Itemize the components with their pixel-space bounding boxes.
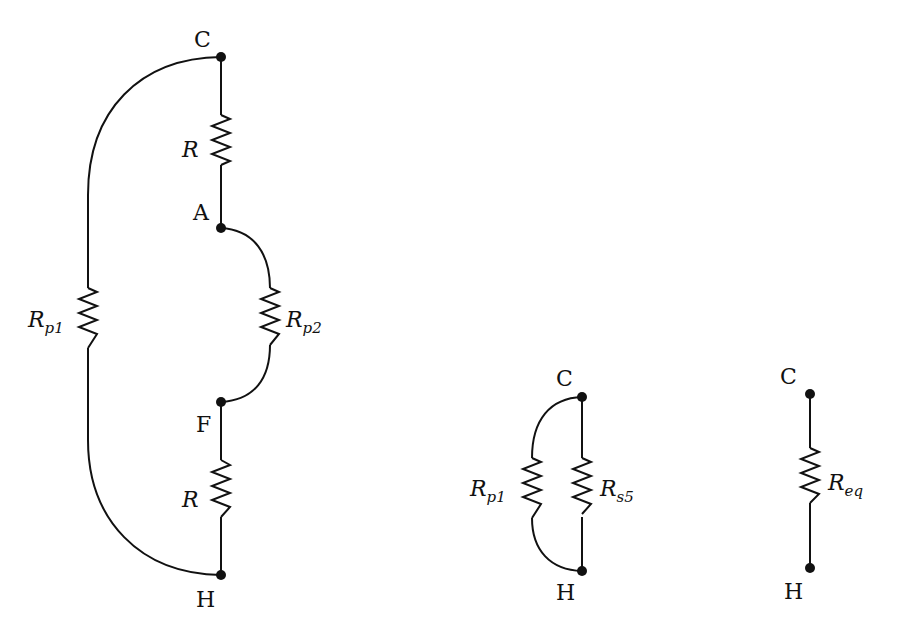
wire-rp1-h xyxy=(88,348,221,575)
node-h-3 xyxy=(805,563,815,573)
resistor-rp1 xyxy=(79,288,97,348)
label-req: Req xyxy=(827,470,863,500)
resistor-rs5 xyxy=(573,458,591,514)
wire-c-rp1b xyxy=(532,397,582,458)
circuit-equivalent: C H Req xyxy=(780,364,863,604)
resistor-r-bottom xyxy=(212,460,230,517)
resistor-req xyxy=(801,448,819,503)
label-node-c: C xyxy=(194,27,211,52)
node-c-2 xyxy=(577,392,587,402)
label-r-top: R xyxy=(181,137,199,162)
label-node-h: H xyxy=(196,587,215,612)
node-f xyxy=(216,397,226,407)
label-rp2: Rp2 xyxy=(285,307,322,337)
resistor-rp2 xyxy=(261,288,279,345)
label-node-f: F xyxy=(196,412,211,437)
node-h xyxy=(216,570,226,580)
resistor-r-top xyxy=(212,115,230,165)
label-node-c-3: C xyxy=(780,364,797,389)
wire-rp2-f xyxy=(221,345,270,402)
circuit-parallel: C H Rp1 Rs5 xyxy=(469,366,634,605)
circuit-original: C A F H R R Rp1 Rp2 xyxy=(27,27,322,612)
circuit-diagram: C A F H R R Rp1 Rp2 C H Rp1 Rs5 xyxy=(0,0,897,630)
label-node-h-2: H xyxy=(556,580,575,605)
label-node-h-3: H xyxy=(784,579,803,604)
node-h-2 xyxy=(577,566,587,576)
label-r-bottom: R xyxy=(181,487,199,512)
label-rp1-b: Rp1 xyxy=(469,476,506,506)
label-node-a: A xyxy=(192,200,210,225)
node-a xyxy=(216,223,226,233)
wire-rp1b-h xyxy=(532,518,582,571)
node-c-3 xyxy=(805,389,815,399)
label-node-c-2: C xyxy=(556,366,573,391)
node-c xyxy=(216,52,226,62)
label-rs5: Rs5 xyxy=(599,476,634,506)
label-rp1: Rp1 xyxy=(27,307,64,337)
wire-c-rp1 xyxy=(88,57,221,288)
resistor-rp1-b xyxy=(523,458,541,518)
wire-a-rp2 xyxy=(221,228,270,288)
